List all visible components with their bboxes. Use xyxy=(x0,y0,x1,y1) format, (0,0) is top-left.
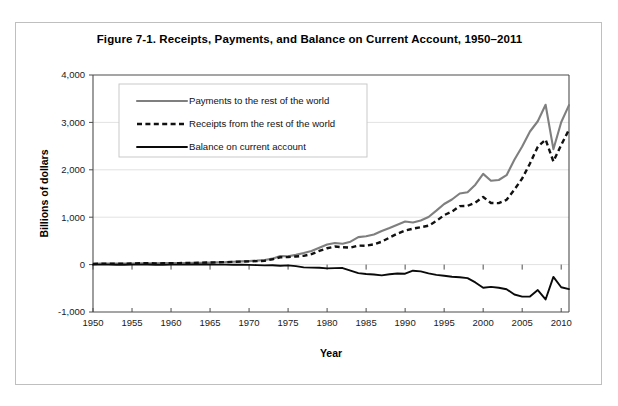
y-tick-marks xyxy=(89,75,93,312)
x-tick-label: 2005 xyxy=(512,317,533,328)
x-tick-label: 1975 xyxy=(278,317,299,328)
chart-canvas: -1,00001,0002,0003,0004,000 195019551960… xyxy=(16,23,603,386)
x-tick-label: 1985 xyxy=(356,317,377,328)
x-tick-label: 1955 xyxy=(121,317,142,328)
y-tick-label: 2,000 xyxy=(61,164,85,175)
y-tick-labels: -1,00001,0002,0003,0004,000 xyxy=(58,69,85,317)
y-tick-label: 3,000 xyxy=(61,117,85,128)
x-tick-label: 1950 xyxy=(82,317,103,328)
x-tick-label: 1960 xyxy=(160,317,181,328)
y-tick-label: 1,000 xyxy=(61,212,85,223)
x-tick-label: 2000 xyxy=(473,317,494,328)
x-tick-label: 2010 xyxy=(551,317,572,328)
x-tick-label: 1990 xyxy=(395,317,416,328)
x-tick-labels: 1950195519601965197019751980198519901995… xyxy=(82,317,571,328)
legend-label-0: Payments to the rest of the world xyxy=(189,95,329,106)
y-tick-label: 0 xyxy=(80,259,85,270)
x-axis-title: Year xyxy=(320,347,342,359)
series-line-2 xyxy=(93,264,569,299)
chart-legend: Payments to the rest of the worldReceipt… xyxy=(119,84,367,157)
legend-label-1: Receipts from the rest of the world xyxy=(189,118,335,129)
x-tick-label: 1970 xyxy=(238,317,259,328)
x-tick-label: 1995 xyxy=(434,317,455,328)
x-tick-label: 1980 xyxy=(317,317,338,328)
legend-label-2: Balance on current account xyxy=(189,141,306,152)
figure-frame: Figure 7-1. Receipts, Payments, and Bala… xyxy=(15,22,602,385)
x-tick-label: 1965 xyxy=(199,317,220,328)
x-tick-marks xyxy=(93,265,561,312)
y-axis-title: Billions of dollars xyxy=(38,149,50,237)
y-tick-label: 4,000 xyxy=(61,69,85,80)
y-tick-label: -1,000 xyxy=(58,306,85,317)
